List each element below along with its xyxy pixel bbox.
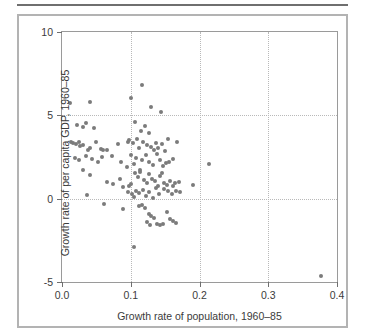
top-divider-rule xyxy=(17,4,348,6)
y-axis-tick xyxy=(57,32,62,33)
scatter-point xyxy=(141,188,145,192)
scatter-point xyxy=(111,182,115,186)
scatter-point xyxy=(147,131,151,135)
scatter-point xyxy=(170,192,174,196)
scatter-point xyxy=(94,140,98,144)
scatter-point xyxy=(133,120,137,124)
scatter-point xyxy=(88,146,92,150)
scatter-point xyxy=(88,100,92,104)
scatter-plot-figure: -505100.00.10.20.30.4 Growth rate of pop… xyxy=(0,0,365,336)
scatter-point xyxy=(137,191,141,195)
scatter-point xyxy=(75,123,79,127)
scatter-point xyxy=(125,165,129,169)
scatter-point xyxy=(135,137,139,141)
scatter-point xyxy=(158,158,162,162)
scatter-point xyxy=(145,220,149,224)
y-axis-tick-label: 5 xyxy=(47,110,53,121)
scatter-point xyxy=(105,180,109,184)
scatter-point xyxy=(163,149,167,153)
scatter-point xyxy=(145,181,149,185)
scatter-point xyxy=(159,110,163,114)
scatter-point xyxy=(134,156,138,160)
scatter-point xyxy=(81,125,85,129)
scatter-point xyxy=(129,153,133,157)
scatter-point xyxy=(160,171,164,175)
scatter-point xyxy=(140,83,144,87)
scatter-point xyxy=(148,223,152,227)
scatter-point xyxy=(85,193,89,197)
x-axis-tick xyxy=(200,282,201,287)
scatter-point xyxy=(174,221,178,225)
scatter-point xyxy=(157,192,161,196)
scatter-point xyxy=(151,163,155,167)
y-axis-tick-label: 0 xyxy=(47,193,53,204)
scatter-point xyxy=(152,216,156,220)
scatter-point xyxy=(139,129,143,133)
scatter-point xyxy=(137,146,141,150)
scatter-point xyxy=(165,183,169,187)
scatter-point xyxy=(81,168,85,172)
scatter-point xyxy=(105,148,109,152)
plot-area: -505100.00.10.20.30.4 xyxy=(61,31,338,283)
x-axis-tick xyxy=(268,282,269,287)
scatter-point xyxy=(147,190,151,194)
scatter-point xyxy=(110,154,114,158)
scatter-point xyxy=(129,182,133,186)
scatter-point xyxy=(92,126,96,130)
x-axis-tick-label: 0.4 xyxy=(330,290,345,301)
scatter-point xyxy=(177,180,181,184)
scatter-point xyxy=(90,157,94,161)
scatter-point xyxy=(96,160,100,164)
x-axis-title: Growth rate of population, 1960–85 xyxy=(61,310,338,322)
scatter-point xyxy=(102,202,106,206)
scatter-point xyxy=(207,162,211,166)
scatter-point xyxy=(144,153,148,157)
y-axis-tick-label: -5 xyxy=(44,277,53,288)
scatter-point xyxy=(160,142,164,146)
scatter-point xyxy=(119,160,123,164)
gridline-vertical xyxy=(268,32,269,282)
scatter-point xyxy=(132,245,136,249)
scatter-point xyxy=(77,158,81,162)
gridline-vertical xyxy=(131,32,132,282)
scatter-point xyxy=(319,274,323,278)
scatter-point xyxy=(168,179,172,183)
scatter-point xyxy=(171,157,175,161)
scatter-point xyxy=(143,124,147,128)
scatter-point xyxy=(121,207,125,211)
scatter-point xyxy=(121,185,125,189)
scatter-point xyxy=(147,172,151,176)
scatter-point xyxy=(191,183,195,187)
scatter-point xyxy=(154,186,158,190)
scatter-point xyxy=(132,162,136,166)
scatter-point xyxy=(88,173,92,177)
scatter-point xyxy=(166,137,170,141)
scatter-point xyxy=(155,152,159,156)
scatter-point xyxy=(144,194,148,198)
scatter-point xyxy=(175,140,179,144)
y-axis-tick-label: 10 xyxy=(41,27,53,38)
x-axis-tick-label: 0.3 xyxy=(261,290,276,301)
scatter-point xyxy=(151,196,155,200)
scatter-point xyxy=(118,177,122,181)
scatter-point xyxy=(153,179,157,183)
scatter-point xyxy=(149,105,153,109)
scatter-point xyxy=(100,155,104,159)
scatter-point xyxy=(158,174,162,178)
scatter-point xyxy=(116,142,120,146)
scatter-point xyxy=(132,195,136,199)
scatter-point xyxy=(161,222,165,226)
scatter-point xyxy=(138,170,142,174)
scatter-point xyxy=(178,190,182,194)
scatter-point xyxy=(165,210,169,214)
x-axis-tick xyxy=(131,282,132,287)
scatter-point xyxy=(140,158,144,162)
gridline-vertical xyxy=(200,32,201,282)
x-axis-tick-label: 0.0 xyxy=(55,290,70,301)
scatter-point xyxy=(129,96,133,100)
scatter-point xyxy=(156,146,160,150)
scatter-point xyxy=(143,206,147,210)
scatter-point xyxy=(81,143,85,147)
x-axis-tick-label: 0.1 xyxy=(123,290,138,301)
y-axis-title: Growth rate of per capita GDP, 1960–85 xyxy=(59,37,71,289)
